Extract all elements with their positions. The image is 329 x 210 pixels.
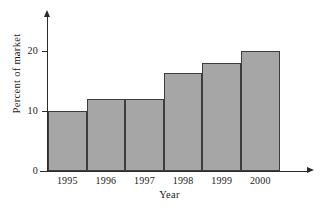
bar-1999: [202, 63, 241, 171]
bar-1995: [48, 111, 87, 171]
x-tick-label-1999: 1999: [202, 175, 241, 186]
x-axis-title: Year: [0, 189, 329, 200]
y-axis-title: Percent of market: [11, 14, 22, 134]
bar-2000: [241, 51, 280, 171]
bar-1997: [125, 99, 164, 171]
bar-chart-figure: 01020 199519961997199819992000 Percent o…: [0, 0, 329, 210]
bars-container: [48, 15, 307, 171]
y-tick-label-10: 10: [28, 106, 38, 116]
x-tick-label-1995: 1995: [48, 175, 87, 186]
x-tick-label-1998: 1998: [164, 175, 203, 186]
x-tick-label-1997: 1997: [125, 175, 164, 186]
bar-1998: [164, 73, 203, 171]
x-tick-label-2000: 2000: [241, 175, 280, 186]
y-tick-label-20: 20: [28, 46, 38, 56]
x-axis-arrowhead: [307, 167, 314, 173]
x-axis-line: [40, 171, 308, 172]
y-tick-label-0: 0: [33, 166, 38, 176]
bar-1996: [87, 99, 126, 171]
x-tick-label-1996: 1996: [87, 175, 126, 186]
